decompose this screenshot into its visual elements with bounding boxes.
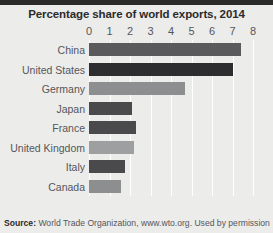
bar: [89, 102, 132, 115]
bar: [89, 43, 241, 56]
x-tick-label: 8: [250, 25, 256, 38]
source-text: World Trade Organization, www.wto.org. U…: [38, 218, 270, 228]
x-tick-label: 1: [106, 25, 112, 38]
x-tick-label: 5: [188, 25, 194, 38]
category-label: Italy: [66, 161, 85, 173]
category-label: United Kingdom: [10, 142, 85, 154]
category-label: France: [52, 122, 85, 134]
bar: [89, 160, 125, 173]
x-axis-tick-labels: 012345678: [89, 25, 253, 39]
category-label: Canada: [48, 181, 85, 193]
source-prefix: Source:: [4, 218, 36, 228]
source-note: Source: World Trade Organization, www.wt…: [4, 218, 270, 228]
x-tick-label: 2: [127, 25, 133, 38]
y-axis-category-labels: ChinaUnited StatesGermanyJapanFranceUnit…: [0, 40, 85, 196]
x-tick-label: 3: [147, 25, 153, 38]
x-tick-label: 7: [229, 25, 235, 38]
bar: [89, 141, 134, 154]
chart-title: Percentage share of world exports, 2014: [0, 8, 273, 20]
x-tick-label: 6: [209, 25, 215, 38]
x-tick-label: 0: [86, 25, 92, 38]
bar: [89, 82, 185, 95]
top-border-band: [0, 0, 273, 5]
category-label: China: [58, 44, 85, 56]
bar: [89, 63, 233, 76]
chart-figure: Percentage share of world exports, 2014 …: [0, 0, 273, 233]
category-label: Germany: [42, 83, 85, 95]
plot-area: [89, 40, 253, 196]
bar: [89, 121, 136, 134]
gridline: [233, 40, 234, 196]
bar: [89, 180, 121, 193]
category-label: Japan: [56, 103, 85, 115]
x-tick-label: 4: [168, 25, 174, 38]
gridline: [253, 40, 254, 196]
category-label: United States: [22, 64, 85, 76]
